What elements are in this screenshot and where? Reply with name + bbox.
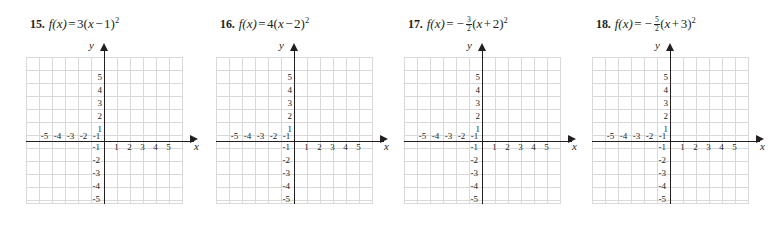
y-tick-5: 5 xyxy=(656,72,668,82)
y-axis-line xyxy=(670,48,671,204)
y-axis-arrow-icon xyxy=(100,43,108,51)
x-tick--2: -2 xyxy=(455,131,468,141)
problem-heading-18: 18.f(x)=−52(x+3)2 xyxy=(596,14,696,34)
problem-expression: f(x)=−32(x+2)2 xyxy=(427,16,508,31)
y-tick--3: -3 xyxy=(278,168,290,178)
y-tick-3: 3 xyxy=(280,98,292,108)
equals-sign: = xyxy=(633,16,643,31)
x-tick--2: -2 xyxy=(267,131,280,141)
y-tick--4: -4 xyxy=(654,181,666,191)
problem-heading-17: 17.f(x)=−32(x+2)2 xyxy=(408,14,508,34)
x-tick-5: 5 xyxy=(540,142,553,152)
coordinate-grid-18: x y -5 -4 -3 -2 -1 1 2 3 4 5 5 4 3 2 1 -… xyxy=(592,57,748,203)
x-tick--4: -4 xyxy=(617,131,630,141)
function-notation: f(x) xyxy=(49,16,67,31)
x-tick-1: 1 xyxy=(110,142,123,152)
x-tick-4: 4 xyxy=(715,142,728,152)
y-tick--2: -2 xyxy=(654,155,666,165)
y-tick--1: -1 xyxy=(466,142,478,152)
y-tick-4: 4 xyxy=(280,85,292,95)
function-notation: f(x) xyxy=(239,16,257,31)
x-tick-5: 5 xyxy=(162,142,175,152)
y-tick--5: -5 xyxy=(654,194,666,204)
y-tick--5: -5 xyxy=(88,194,100,204)
x-tick--5: -5 xyxy=(38,131,51,141)
y-axis-line xyxy=(294,48,295,204)
x-tick--3: -3 xyxy=(254,131,267,141)
x-tick--3: -3 xyxy=(442,131,455,141)
y-tick-4: 4 xyxy=(468,85,480,95)
x-tick--4: -4 xyxy=(429,131,442,141)
y-tick--1: -1 xyxy=(88,142,100,152)
leading-minus-sign: − xyxy=(643,16,653,31)
y-axis-label: y xyxy=(655,39,660,51)
variable: x xyxy=(278,16,284,31)
inner-sign: + xyxy=(482,16,492,31)
problem-number: 18. xyxy=(596,17,611,31)
problem-expression: f(x)=4(x−2)2 xyxy=(239,16,309,31)
y-axis-line xyxy=(104,48,105,204)
y-axis-line xyxy=(482,48,483,204)
exponent: 2 xyxy=(305,15,309,25)
y-tick--2: -2 xyxy=(466,155,478,165)
problem-number: 17. xyxy=(408,17,423,31)
y-tick-1: 1 xyxy=(280,124,292,134)
y-tick--2: -2 xyxy=(88,155,100,165)
problem-expression: f(x)=−52(x+3)2 xyxy=(615,16,696,31)
problem-block-18: 18.f(x)=−52(x+3)2 x y -5 -4 -3 -2 -1 1 2… xyxy=(578,0,768,229)
y-axis-label: y xyxy=(467,39,472,51)
inner-sign: + xyxy=(670,16,680,31)
y-tick-2: 2 xyxy=(90,111,102,121)
x-tick-4: 4 xyxy=(149,142,162,152)
x-tick-3: 3 xyxy=(514,142,527,152)
leading-minus-sign: − xyxy=(455,16,465,31)
problem-number: 16. xyxy=(220,17,235,31)
x-axis-label: x xyxy=(194,140,199,152)
coordinate-grid-16: x y -5 -4 -3 -2 -1 1 2 3 4 5 5 4 3 2 1 -… xyxy=(216,57,372,203)
function-notation: f(x) xyxy=(427,16,445,31)
y-tick--1: -1 xyxy=(278,142,290,152)
fraction-coefficient: 52 xyxy=(654,16,660,33)
y-axis-label: y xyxy=(279,39,284,51)
y-tick-3: 3 xyxy=(656,98,668,108)
equals-sign: = xyxy=(257,16,267,31)
y-tick--1: -1 xyxy=(654,142,666,152)
coordinate-grid-17: x y -5 -4 -3 -2 -1 1 2 3 4 5 5 4 3 2 1 -… xyxy=(404,57,560,203)
x-tick--2: -2 xyxy=(77,131,90,141)
y-tick-3: 3 xyxy=(468,98,480,108)
problem-number: 15. xyxy=(30,17,45,31)
y-tick--3: -3 xyxy=(88,168,100,178)
x-tick-1: 1 xyxy=(300,142,313,152)
y-tick-2: 2 xyxy=(468,111,480,121)
x-axis-label: x xyxy=(572,140,577,152)
y-tick-4: 4 xyxy=(656,85,668,95)
fraction-numerator: 3 xyxy=(466,16,472,24)
y-axis-arrow-icon xyxy=(478,43,486,51)
x-tick-5: 5 xyxy=(728,142,741,152)
x-tick--4: -4 xyxy=(51,131,64,141)
y-axis-arrow-icon xyxy=(666,43,674,51)
x-tick--4: -4 xyxy=(241,131,254,141)
x-tick-1: 1 xyxy=(488,142,501,152)
y-axis-arrow-icon xyxy=(290,43,298,51)
x-tick--3: -3 xyxy=(64,131,77,141)
x-tick-4: 4 xyxy=(339,142,352,152)
y-tick-5: 5 xyxy=(468,72,480,82)
fraction-denominator: 2 xyxy=(466,24,472,33)
inner-sign: − xyxy=(284,16,294,31)
x-tick--5: -5 xyxy=(228,131,241,141)
coordinate-grid-15: x y -5 -4 -3 -2 -1 1 2 3 4 5 5 4 3 2 1 -… xyxy=(26,57,182,203)
y-tick-2: 2 xyxy=(280,111,292,121)
problem-block-17: 17.f(x)=−32(x+2)2 x y -5 -4 -3 -2 -1 1 2… xyxy=(390,0,580,229)
x-tick-2: 2 xyxy=(501,142,514,152)
inner-sign: − xyxy=(94,16,104,31)
x-tick--5: -5 xyxy=(604,131,617,141)
problem-expression: f(x)=3(x−1)2 xyxy=(49,16,119,31)
fraction-denominator: 2 xyxy=(654,24,660,33)
y-tick--3: -3 xyxy=(466,168,478,178)
y-axis-label: y xyxy=(89,39,94,51)
y-tick--5: -5 xyxy=(466,194,478,204)
x-tick-2: 2 xyxy=(313,142,326,152)
y-tick-3: 3 xyxy=(90,98,102,108)
